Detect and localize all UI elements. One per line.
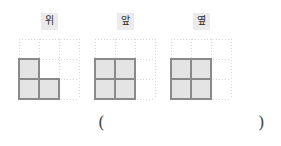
answer-paren-open: ( (98, 104, 105, 140)
view-label-front: 앞 (117, 13, 134, 30)
view-grid-svg-front (94, 38, 156, 100)
view-cell (171, 79, 191, 99)
view-cell (115, 59, 135, 79)
view-grid-front (94, 38, 156, 100)
view-cell (19, 59, 39, 79)
view-group-side: 옆 (158, 10, 244, 100)
orthographic-views-figure: 위 앞 옆 ( ) (0, 0, 281, 146)
view-label-side: 옆 (193, 13, 210, 30)
view-label-wrap-top: 위 (6, 10, 92, 32)
view-grid-side (170, 38, 232, 100)
view-label-top: 위 (41, 13, 58, 30)
view-grid-svg-top (18, 38, 80, 100)
view-grid-svg-side (170, 38, 232, 100)
view-cell (39, 79, 59, 99)
view-cell (95, 59, 115, 79)
answer-blank-input[interactable] (110, 104, 256, 140)
view-label-wrap-front: 앞 (82, 10, 168, 32)
view-group-top: 위 (6, 10, 92, 100)
view-label-wrap-side: 옆 (158, 10, 244, 32)
view-cell (191, 59, 211, 79)
view-cell (95, 79, 115, 99)
view-group-front: 앞 (82, 10, 168, 100)
view-cell (171, 59, 191, 79)
view-cell (191, 79, 211, 99)
view-cell (115, 79, 135, 99)
view-grid-top (18, 38, 80, 100)
answer-paren-close: ) (258, 104, 265, 140)
view-cell (19, 79, 39, 99)
answer-row: ( ) (0, 104, 281, 140)
